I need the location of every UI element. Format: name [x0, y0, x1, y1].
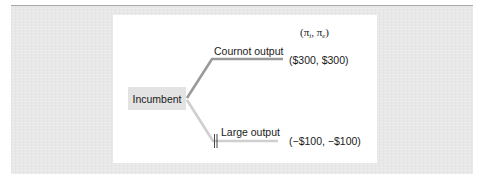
payoff-large: (−$100, −$100) [289, 136, 361, 147]
incumbent-node: Incumbent [128, 87, 186, 110]
payoff-header: (πi, πe) [300, 26, 329, 40]
game-tree-svg [0, 0, 479, 174]
incumbent-label: Incumbent [132, 93, 181, 105]
branch-label-large: Large output [221, 127, 280, 138]
payoff-cournot: ($300, $300) [289, 55, 349, 66]
branch-cournot-line [187, 59, 283, 98]
branch-label-cournot: Cournot output [214, 46, 283, 57]
paren-close: ) [325, 26, 329, 38]
